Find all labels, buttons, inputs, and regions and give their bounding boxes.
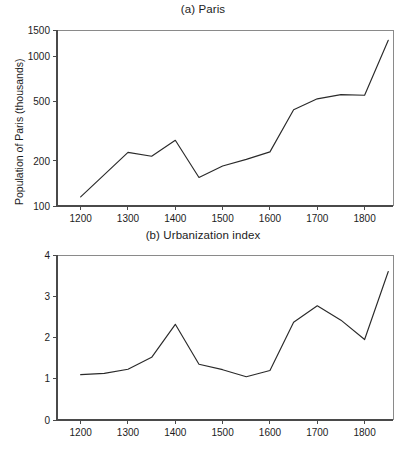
x-tick-label: 1700	[306, 213, 329, 224]
x-tick-label: 1800	[353, 427, 376, 438]
x-tick-label: 1500	[212, 213, 235, 224]
panel-b-plot: 120013001400150016001700180001234	[0, 226, 406, 454]
y-tick-label: 0	[44, 415, 50, 426]
x-tick-label: 1400	[164, 213, 187, 224]
y-tick-label: 1	[44, 373, 50, 384]
data-series-line	[81, 272, 389, 377]
y-tick-label: 200	[33, 156, 50, 167]
x-tick-label: 1200	[70, 213, 93, 224]
panel-axes	[57, 255, 393, 420]
x-tick-label: 1300	[117, 213, 140, 224]
y-tick-label: 500	[33, 96, 50, 107]
y-tick-label: 1500	[28, 25, 51, 36]
x-tick-label: 1400	[164, 427, 187, 438]
x-tick-label: 1300	[117, 427, 140, 438]
x-tick-label: 1800	[353, 213, 376, 224]
panel-urbanization-index: (b) Urbanization index Percent of popula…	[0, 226, 406, 454]
y-tick-label: 3	[44, 291, 50, 302]
y-tick-label: 1000	[28, 51, 51, 62]
x-tick-label: 1500	[212, 427, 235, 438]
x-tick-label: 1600	[259, 427, 282, 438]
figure-two-panel-line-charts: (a) Paris Population of Paris (thousands…	[0, 0, 406, 454]
data-series-line	[81, 40, 389, 197]
y-tick-label: 2	[44, 332, 50, 343]
y-tick-label: 100	[33, 201, 50, 212]
y-tick-label: 4	[44, 250, 50, 261]
panel-axes	[57, 30, 393, 206]
panel-paris: (a) Paris Population of Paris (thousands…	[0, 0, 406, 228]
x-tick-label: 1700	[306, 427, 329, 438]
panel-a-plot: 1200130014001500160017001800100200500100…	[0, 0, 406, 228]
x-tick-label: 1200	[70, 427, 93, 438]
x-tick-label: 1600	[259, 213, 282, 224]
